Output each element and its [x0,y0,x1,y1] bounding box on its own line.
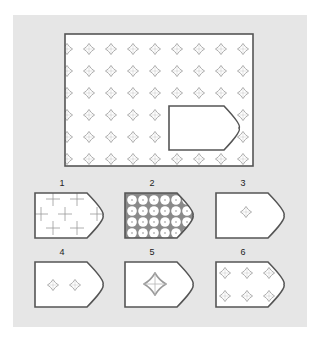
option-label: 5 [149,247,154,257]
option-label: 6 [240,247,245,257]
puzzle-figure: 123456 [0,0,314,337]
option-label: 4 [59,247,64,257]
option-label: 3 [240,178,245,188]
main-frame [62,34,254,166]
cutout-gap [169,106,239,150]
option-label: 1 [59,178,64,188]
option-label: 2 [149,178,154,188]
